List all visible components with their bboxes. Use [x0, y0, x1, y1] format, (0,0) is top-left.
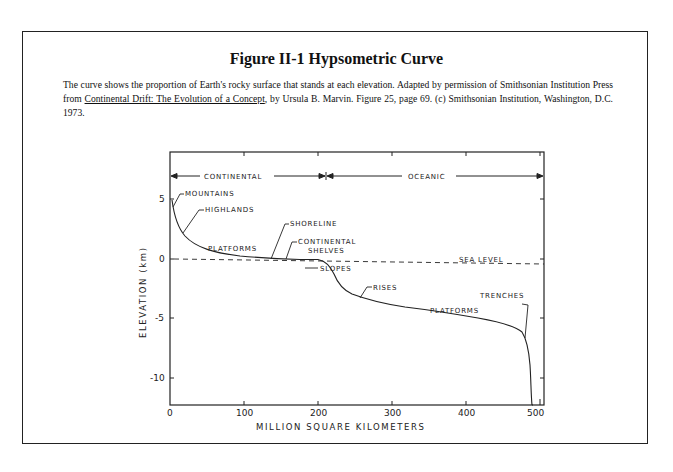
y-tick-minus10: -10: [150, 373, 165, 383]
platforms-continental-label: PLATFORMS: [208, 245, 257, 253]
rises-label: RISES: [373, 284, 397, 292]
y-tick-0: 0: [159, 254, 165, 264]
highlands-label: HIGHLANDS: [205, 206, 254, 214]
oceanic-label: OCEANIC: [408, 173, 445, 181]
shoreline-label: SHORELINE: [290, 220, 337, 228]
continental-shelves-label-1: CONTINENTAL: [298, 238, 356, 246]
continental-shelves-label-2: SHELVES: [308, 247, 345, 255]
hypsometric-chart: CONTINENTAL OCEANIC SEA LEVEL MOUNTAINS …: [0, 0, 673, 472]
x-tick-400: 400: [458, 408, 475, 418]
trenches-label: TRENCHES: [479, 292, 524, 300]
slopes-label: SLOPES: [320, 265, 352, 273]
hypsometric-curve: [172, 200, 532, 405]
y-tick-minus5: -5: [155, 313, 164, 323]
x-axis-label: MILLION SQUARE KILOMETERS: [256, 422, 425, 432]
x-tick-200: 200: [310, 408, 327, 418]
continental-label: CONTINENTAL: [204, 173, 262, 181]
x-tick-500: 500: [527, 408, 544, 418]
mountains-label: MOUNTAINS: [185, 190, 234, 198]
x-tick-0: 0: [167, 408, 173, 418]
platforms-oceanic-label: PLATFORMS: [430, 307, 479, 315]
y-axis-label: ELEVATION (km): [138, 246, 148, 338]
y-tick-5: 5: [159, 194, 165, 204]
x-tick-100: 100: [236, 408, 253, 418]
x-tick-300: 300: [384, 408, 401, 418]
sea-level-label: SEA LEVEL: [459, 256, 504, 264]
